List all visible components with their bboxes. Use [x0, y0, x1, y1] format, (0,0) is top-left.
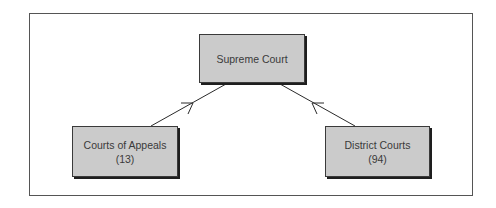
node-supreme-court: Supreme Court — [199, 34, 305, 83]
node-label: Supreme Court — [216, 52, 287, 66]
node-count: (13) — [116, 152, 135, 166]
node-label: District Courts — [345, 138, 411, 152]
node-district-courts: District Courts (94) — [325, 126, 430, 177]
node-label: Courts of Appeals — [84, 138, 167, 152]
node-count: (94) — [368, 152, 387, 166]
node-courts-of-appeals: Courts of Appeals (13) — [72, 126, 178, 177]
